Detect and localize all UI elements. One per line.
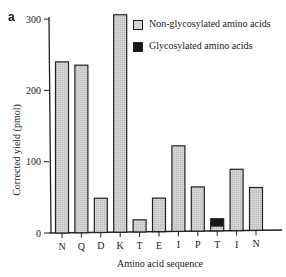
bar-non-glycosylated bbox=[75, 65, 88, 233]
x-tick-label: I bbox=[177, 239, 180, 250]
x-tick-label: P bbox=[195, 239, 201, 250]
y-tick-label: 200 bbox=[26, 85, 41, 96]
y-tick-label: 0 bbox=[36, 228, 41, 239]
x-tick-label: D bbox=[97, 240, 104, 251]
x-tick-label: I bbox=[235, 239, 238, 250]
x-tick-label: Q bbox=[78, 241, 86, 252]
legend-label: Glycosylated amino acids bbox=[149, 40, 252, 51]
bar-non-glycosylated bbox=[172, 146, 185, 232]
bar-non-glycosylated bbox=[133, 220, 146, 232]
legend-swatch-glycosylated bbox=[133, 42, 143, 52]
bar-non-glycosylated bbox=[114, 15, 127, 232]
bar-non-glycosylated bbox=[56, 62, 69, 233]
bar-non-glycosylated bbox=[211, 226, 224, 231]
bar-non-glycosylated bbox=[230, 169, 243, 230]
x-tick-label: E bbox=[156, 240, 162, 251]
bar-non-glycosylated bbox=[94, 198, 107, 232]
y-axis-line bbox=[49, 17, 51, 233]
y-tick-label: 100 bbox=[26, 156, 41, 167]
bar-non-glycosylated bbox=[191, 187, 204, 231]
x-tick-label: N bbox=[252, 238, 259, 249]
x-tick-label: T bbox=[137, 240, 143, 251]
legend-swatch-non-glycosylated bbox=[133, 20, 143, 30]
x-tick-label: T bbox=[214, 239, 220, 250]
bar-non-glycosylated bbox=[250, 188, 263, 231]
x-tick-label: N bbox=[58, 241, 65, 252]
panel-label: a bbox=[8, 10, 15, 24]
x-tick-label: K bbox=[117, 240, 125, 251]
y-tick-label: 300 bbox=[26, 14, 41, 25]
legend-label: Non-glycosylated amino acids bbox=[149, 18, 271, 29]
bar-non-glycosylated bbox=[153, 198, 166, 232]
x-axis-label: Amino acid sequence bbox=[117, 258, 203, 269]
y-axis-label: Corrected yield (pmol) bbox=[11, 104, 22, 196]
bar-glycosylated bbox=[211, 219, 224, 226]
